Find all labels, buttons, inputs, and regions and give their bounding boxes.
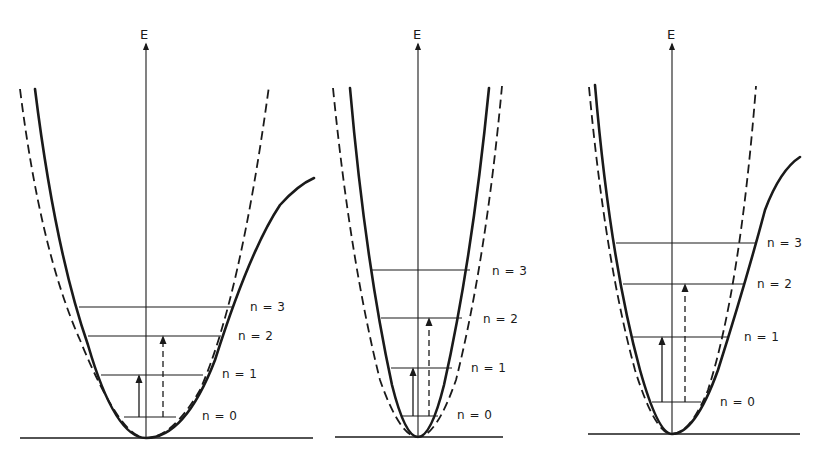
- energy-level-label: n = 2: [483, 313, 518, 325]
- energy-level-label: n = 3: [250, 301, 285, 313]
- energy-level-label: n = 1: [744, 331, 779, 343]
- energy-level-label: n = 3: [767, 237, 802, 249]
- energy-level-label: n = 2: [238, 330, 273, 342]
- energy-level-label: n = 0: [202, 410, 237, 422]
- potential-diagrams: [0, 0, 821, 453]
- figure: n = 0n = 1n = 2n = 3En = 0n = 1n = 2n = …: [0, 0, 821, 453]
- energy-level-label: n = 1: [222, 368, 257, 380]
- energy-level-label: n = 0: [457, 409, 492, 421]
- anharmonic-potential-curve: [350, 88, 489, 437]
- energy-level-label: n = 0: [720, 396, 755, 408]
- anharmonic-potential-curve: [595, 85, 800, 434]
- harmonic-potential-curve: [20, 86, 269, 438]
- energy-axis-label: E: [667, 29, 676, 41]
- energy-level-label: n = 3: [492, 265, 527, 277]
- energy-axis-label: E: [140, 29, 149, 41]
- energy-level-label: n = 2: [757, 278, 792, 290]
- energy-level-label: n = 1: [471, 362, 506, 374]
- energy-axis-label: E: [413, 29, 422, 41]
- anharmonic-potential-curve: [35, 89, 314, 438]
